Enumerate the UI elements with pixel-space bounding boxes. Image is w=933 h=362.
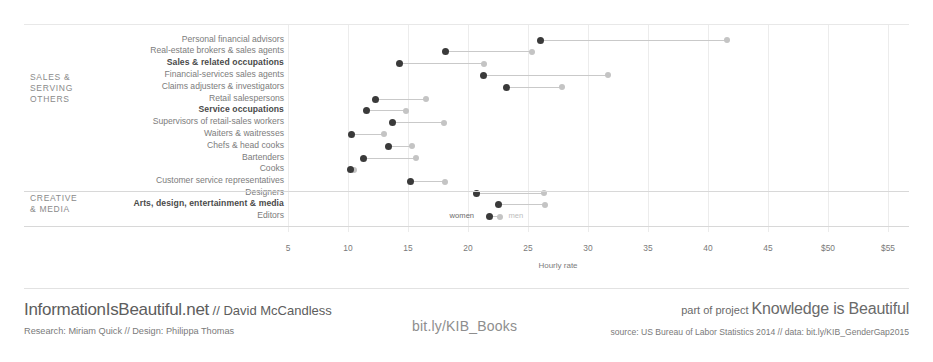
footer-divider — [24, 288, 909, 289]
group-divider — [24, 191, 909, 192]
men-dot[interactable] — [409, 143, 415, 149]
x-tick-50: $50 — [821, 243, 835, 253]
legend-men-label: men — [508, 211, 523, 220]
x-axis-title: Hourly rate — [538, 261, 577, 270]
women-dot[interactable] — [363, 107, 370, 114]
gender-pay-gap-chart: SALES & SERVING OTHERSCREATIVE & MEDIA P… — [0, 0, 933, 362]
women-dot[interactable] — [480, 72, 487, 79]
row-label: Sales & related occupations — [24, 57, 284, 69]
gridline-30 — [588, 24, 589, 232]
women-dot[interactable] — [360, 155, 367, 162]
x-tick-5: 5 — [286, 243, 291, 253]
gridline-15 — [408, 24, 409, 232]
row-label: Retail salespersons — [24, 93, 284, 105]
men-dot[interactable] — [403, 108, 409, 114]
chart-top-rule — [24, 24, 909, 25]
gridline-10 — [348, 24, 349, 232]
connector-line — [506, 87, 561, 88]
connector-line — [364, 158, 417, 159]
women-dot[interactable] — [389, 119, 396, 126]
men-dot[interactable] — [559, 84, 565, 90]
legend-women-label: women — [450, 211, 474, 220]
x-tick-35: 35 — [643, 243, 652, 253]
books-link[interactable]: bit.ly/KIB_Books — [412, 318, 517, 334]
connector-line — [476, 193, 543, 194]
project-prefix: part of project — [681, 304, 751, 316]
row-label: Service occupations — [24, 104, 284, 116]
connector-line — [376, 99, 426, 100]
men-dot[interactable] — [529, 49, 535, 55]
connector-line — [410, 181, 445, 182]
connector-line — [352, 134, 384, 135]
group-divider — [24, 226, 909, 227]
gridline-50 — [828, 24, 829, 232]
gridline-35 — [648, 24, 649, 232]
women-dot[interactable] — [442, 48, 449, 55]
x-tick-15: 15 — [403, 243, 412, 253]
x-tick-20: 20 — [463, 243, 472, 253]
men-dot[interactable] — [442, 179, 448, 185]
men-dot[interactable] — [423, 96, 429, 102]
row-label: Designers — [24, 187, 284, 199]
women-dot[interactable] — [407, 178, 414, 185]
row-label: Waiters & waitresses — [24, 128, 284, 140]
x-tick-40: 40 — [703, 243, 712, 253]
row-label: Editors — [24, 210, 284, 222]
women-dot[interactable] — [537, 37, 544, 44]
x-tick-25: 25 — [523, 243, 532, 253]
gridline-5 — [288, 24, 289, 232]
row-label: Claims adjusters & investigators — [24, 81, 284, 93]
plot-area — [288, 24, 908, 232]
women-dot[interactable] — [372, 96, 379, 103]
connector-line — [484, 75, 609, 76]
brand-separator: // — [209, 303, 223, 318]
project-name: Knowledge is Beautiful — [752, 300, 909, 317]
brand-name[interactable]: InformationIsBeautiful.net — [24, 300, 209, 319]
x-tick-30: 30 — [583, 243, 592, 253]
x-tick-55: $55 — [881, 243, 895, 253]
connector-line — [445, 51, 531, 52]
row-label: Bartenders — [24, 152, 284, 164]
credits-line: Research: Miriam Quick // Design: Philip… — [24, 326, 234, 336]
row-label: Chefs & head cooks — [24, 140, 284, 152]
women-dot[interactable] — [495, 201, 502, 208]
men-dot[interactable] — [441, 120, 447, 126]
gridline-55 — [888, 24, 889, 232]
row-label: Real-estate brokers & sales agents — [24, 45, 284, 57]
connector-line — [540, 40, 727, 41]
gridline-25 — [528, 24, 529, 232]
connector-line — [366, 110, 406, 111]
row-label: Arts, design, entertainment & media — [24, 198, 284, 210]
row-label: Personal financial advisors — [24, 34, 284, 46]
project-line: part of project Knowledge is Beautiful — [681, 300, 909, 318]
gridline-20 — [468, 24, 469, 232]
x-tick-45: 45 — [763, 243, 772, 253]
source-line: source: US Bureau of Labor Statistics 20… — [610, 327, 909, 337]
gridline-45 — [768, 24, 769, 232]
women-dot[interactable] — [503, 84, 510, 91]
gridline-40 — [708, 24, 709, 232]
x-tick-10: 10 — [343, 243, 352, 253]
connector-line — [498, 204, 545, 205]
men-dot[interactable] — [542, 202, 548, 208]
brand-line: InformationIsBeautiful.net // David McCa… — [24, 300, 332, 320]
men-dot[interactable] — [481, 61, 487, 67]
women-dot[interactable] — [385, 143, 392, 150]
row-label: Financial-services sales agents — [24, 69, 284, 81]
connector-line — [400, 63, 484, 64]
connector-line — [392, 122, 444, 123]
brand-author: David McCandless — [223, 303, 331, 318]
row-label: Customer service representatives — [24, 175, 284, 187]
row-label: Supervisors of retail-sales workers — [24, 116, 284, 128]
women-dot[interactable] — [348, 131, 355, 138]
row-label: Cooks — [24, 163, 284, 175]
